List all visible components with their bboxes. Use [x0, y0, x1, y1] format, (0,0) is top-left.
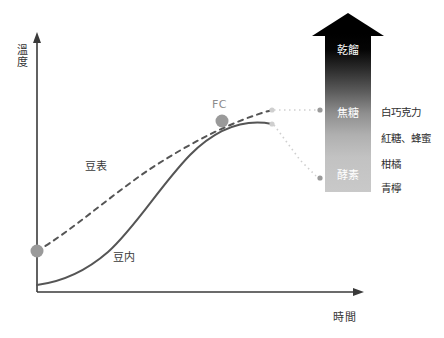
y-axis-arrow-icon	[33, 32, 41, 43]
first-crack-label: FC	[212, 98, 227, 111]
start-marker-dot	[31, 245, 44, 258]
flavour-note: 柑橘	[381, 156, 401, 171]
flavour-note: 青檸	[381, 180, 401, 195]
enzymatic-connector-line	[274, 125, 316, 176]
roast-profile-diagram: 溫度 時間 豆表 豆内 FC 乾餾 焦糖 酵素 白巧克力 紅糖、蜂蜜 柑橘 青檸	[0, 0, 444, 338]
x-axis-arrow-icon	[353, 288, 364, 296]
roast-arrow-up-icon	[312, 13, 384, 36]
fc-marker-dot	[216, 115, 229, 128]
bean-surface-curve	[37, 110, 272, 251]
roast-stage-enzymatic-label: 酵素	[325, 166, 371, 182]
roast-stage-drying-label: 乾餾	[325, 41, 371, 57]
bean-inner-label: 豆内	[113, 248, 135, 264]
bean-surface-label: 豆表	[85, 157, 107, 173]
bean-inner-curve	[37, 123, 272, 285]
surface-end-dot	[269, 107, 274, 112]
roast-curve-chart	[0, 0, 444, 338]
enzymatic-level-dot	[317, 175, 322, 180]
roast-stage-caramel-label: 焦糖	[325, 104, 371, 120]
x-axis-label: 時間	[333, 308, 356, 324]
caramel-level-dot	[317, 107, 322, 112]
flavour-note: 白巧克力	[381, 104, 421, 119]
flavour-note: 紅糖、蜂蜜	[381, 130, 431, 145]
y-axis-label: 溫度	[14, 44, 28, 67]
